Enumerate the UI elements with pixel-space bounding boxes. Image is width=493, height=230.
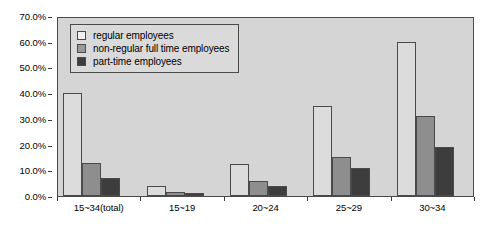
legend-swatch-icon [77,31,86,40]
x-axis-tick-mark [140,197,141,201]
x-axis-tick-mark [224,197,225,201]
legend-label: non-regular full time employees [93,44,229,54]
y-axis-tick-mark [48,94,52,95]
legend-label: regular employees [93,31,174,41]
bar [397,42,416,196]
y-axis-tick-label: 0.0% [25,192,46,202]
y-axis-tick-label: 30.0% [20,115,46,125]
bar [435,147,454,196]
x-axis-tick-mark [307,197,308,201]
y-axis-tick-label: 20.0% [20,141,46,151]
legend-item: regular employees [77,29,229,42]
bar [101,178,120,196]
bar [63,93,82,196]
x-axis-tick-mark [57,197,58,201]
plot-area: regular employeesnon-regular full time e… [57,17,474,197]
y-axis-tick-mark [48,120,52,121]
x-axis-tick-mark [474,197,475,201]
bar [185,193,204,196]
bar [249,181,268,196]
y-axis-tick-mark [48,171,52,172]
x-axis: 15~34(total)15~1920~2425~2930~34 [57,197,474,223]
legend-item: part-time employees [77,55,229,68]
bar [268,186,287,196]
x-axis-tick-label: 20~24 [252,203,278,213]
bar [313,106,332,196]
bar-group [397,18,454,196]
y-axis-tick-label: 40.0% [20,89,46,99]
y-axis: 0.0%10.0%20.0%30.0%40.0%50.0%60.0%70.0% [0,0,52,230]
bar-group [313,18,370,196]
legend-label: part-time employees [93,57,182,67]
bar [82,163,101,196]
bar [351,168,370,196]
y-axis-tick-mark [48,197,52,198]
legend-swatch-icon [77,57,86,66]
x-axis-tick-label: 25~29 [336,203,362,213]
x-axis-tick-label: 15~34(total) [74,203,124,213]
legend-item: non-regular full time employees [77,42,229,55]
bar [230,164,249,196]
y-axis-tick-label: 10.0% [20,167,46,177]
y-axis-tick-mark [48,43,52,44]
chart-legend: regular employeesnon-regular full time e… [70,24,239,73]
bar [147,186,166,196]
x-axis-tick-mark [391,197,392,201]
y-axis-tick-mark [48,17,52,18]
bar [416,116,435,196]
y-axis-tick-mark [48,146,52,147]
x-axis-tick-label: 30~34 [419,203,445,213]
bar-chart: 0.0%10.0%20.0%30.0%40.0%50.0%60.0%70.0% … [0,0,493,230]
bar [166,192,185,196]
bar [332,157,351,196]
x-axis-tick-label: 15~19 [169,203,195,213]
y-axis-tick-label: 60.0% [20,38,46,48]
y-axis-tick-label: 70.0% [20,12,46,22]
y-axis-tick-mark [48,68,52,69]
legend-swatch-icon [77,44,86,53]
y-axis-tick-label: 50.0% [20,64,46,74]
